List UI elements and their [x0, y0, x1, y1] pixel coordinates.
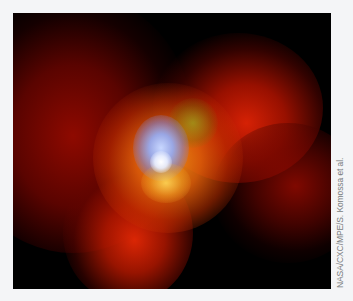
figure: NASA/CXC/MPE/S. Komossa et al.	[0, 0, 353, 301]
astronomical-image	[13, 13, 331, 289]
image-credit: NASA/CXC/MPE/S. Komossa et al.	[334, 178, 346, 288]
white-nucleus	[150, 151, 172, 173]
